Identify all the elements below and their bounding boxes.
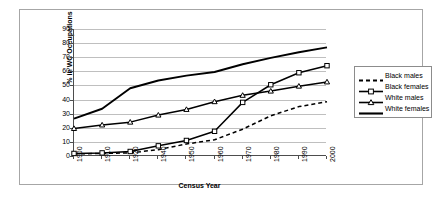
y-tick-label: 70 — [52, 53, 70, 60]
x-tick-mark — [242, 156, 243, 159]
x-axis-title: Census Year — [73, 182, 326, 189]
legend-item-black-females[interactable]: Black females — [355, 81, 431, 92]
data-point-marker — [184, 107, 189, 112]
series-line-white-females — [74, 47, 327, 118]
legend-item-white-males[interactable]: White males — [355, 92, 431, 103]
data-point-marker — [212, 129, 216, 133]
data-point-marker — [128, 120, 133, 125]
data-point-marker — [268, 88, 273, 93]
x-tick-mark — [129, 156, 130, 159]
y-tick-label: 20 — [52, 124, 70, 131]
x-tick-mark — [270, 156, 271, 159]
x-tick-mark — [157, 156, 158, 159]
y-tick-label: 60 — [52, 67, 70, 74]
x-tick-mark — [298, 156, 299, 159]
x-axis-ticks: 1900191019201940195019601970198019902000 — [73, 156, 326, 196]
x-tick-label: 1940 — [160, 146, 167, 162]
x-tick-label: 2000 — [329, 146, 336, 162]
x-tick-label: 1910 — [104, 146, 111, 162]
legend-item-label: Black males — [385, 72, 423, 80]
legend-item-label: Black females — [385, 83, 429, 91]
legend-swatch-icon — [358, 71, 384, 80]
data-point-marker — [325, 63, 329, 67]
legend-swatch-icon — [358, 93, 384, 102]
plot-area — [73, 29, 326, 156]
legend-swatch-icon — [358, 104, 384, 113]
legend-item-label: White females — [385, 105, 429, 113]
chart-legend: Black malesBlack femalesWhite malesWhite… — [354, 66, 432, 118]
chart-frame: % in WC Occupations 0102030405060708090 … — [19, 9, 423, 185]
legend-item-label: White males — [385, 94, 424, 102]
data-point-marker — [324, 79, 329, 84]
series-lines — [74, 29, 327, 156]
x-tick-mark — [326, 156, 327, 159]
y-tick-label: 50 — [52, 81, 70, 88]
legend-item-white-females[interactable]: White females — [355, 103, 431, 114]
x-tick-label: 1950 — [188, 146, 195, 162]
series-line-black-females — [74, 66, 327, 154]
series-line-white-males — [74, 82, 327, 129]
y-tick-label: 90 — [52, 25, 70, 32]
y-tick-label: 40 — [52, 96, 70, 103]
legend-item-black-males[interactable]: Black males — [355, 70, 431, 81]
data-point-marker — [296, 84, 301, 89]
y-tick-label: 80 — [52, 39, 70, 46]
y-tick-label: 30 — [52, 110, 70, 117]
data-point-marker — [240, 100, 244, 104]
data-point-marker — [184, 138, 188, 142]
x-tick-label: 1920 — [132, 146, 139, 162]
legend-swatch-icon — [358, 82, 384, 91]
data-point-marker — [71, 126, 76, 131]
data-point-marker — [269, 83, 273, 87]
x-tick-mark — [73, 156, 74, 159]
x-tick-label: 1980 — [273, 146, 280, 162]
x-tick-mark — [185, 156, 186, 159]
data-point-marker — [156, 112, 161, 117]
x-tick-label: 1990 — [301, 146, 308, 162]
y-axis-ticks: 0102030405060708090 — [50, 29, 70, 156]
y-tick-label: 0 — [52, 152, 70, 159]
x-tick-label: 1900 — [76, 146, 83, 162]
data-point-marker — [240, 93, 245, 98]
x-tick-mark — [214, 156, 215, 159]
data-point-marker — [212, 99, 217, 104]
chart-figure: % in WC Occupations 0102030405060708090 … — [0, 0, 444, 201]
y-tick-label: 10 — [52, 138, 70, 145]
x-tick-label: 1960 — [217, 146, 224, 162]
data-point-marker — [297, 71, 301, 75]
x-tick-mark — [101, 156, 102, 159]
data-point-marker — [100, 122, 105, 127]
series-line-black-males — [74, 102, 327, 154]
x-tick-label: 1970 — [245, 146, 252, 162]
